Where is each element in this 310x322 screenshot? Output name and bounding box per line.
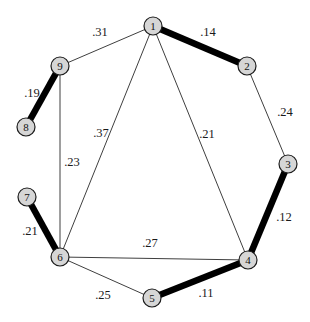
node-8: 8 bbox=[17, 118, 35, 136]
node-2: 2 bbox=[238, 57, 256, 75]
node-number-8: 8 bbox=[23, 121, 29, 133]
edge-weight-9-1: .31 bbox=[92, 25, 108, 39]
graph-svg: .31.14.19.24.37.21.23.12.21.27.25.111234… bbox=[0, 0, 310, 322]
node-6: 6 bbox=[51, 248, 69, 266]
edge-weight-6-4: .27 bbox=[142, 236, 158, 250]
edge-weight-1-2: .14 bbox=[200, 25, 216, 39]
node-1: 1 bbox=[144, 17, 162, 35]
edge-weight-1-6: .37 bbox=[93, 126, 109, 140]
node-3: 3 bbox=[279, 155, 297, 173]
node-number-4: 4 bbox=[245, 254, 251, 266]
node-number-9: 9 bbox=[57, 60, 63, 72]
node-9: 9 bbox=[51, 57, 69, 75]
edge-weight-9-6: .23 bbox=[64, 155, 80, 169]
node-number-3: 3 bbox=[285, 158, 291, 170]
node-number-2: 2 bbox=[244, 60, 250, 72]
edge-1-6 bbox=[60, 26, 153, 257]
node-4: 4 bbox=[239, 251, 257, 269]
edge-weight-8-9: .19 bbox=[24, 86, 40, 100]
node-7: 7 bbox=[18, 188, 36, 206]
edge-weight-6-5: .25 bbox=[95, 288, 111, 302]
node-number-5: 5 bbox=[149, 292, 155, 304]
edge-weight-1-4: .21 bbox=[199, 127, 215, 141]
node-5: 5 bbox=[143, 289, 161, 307]
node-number-6: 6 bbox=[57, 251, 63, 263]
edge-weight-3-4: .12 bbox=[276, 210, 292, 224]
edge-weight-2-3: .24 bbox=[277, 105, 293, 119]
graph-diagram: .31.14.19.24.37.21.23.12.21.27.25.111234… bbox=[0, 0, 310, 322]
edge-6-4 bbox=[60, 257, 248, 260]
node-number-1: 1 bbox=[150, 20, 156, 32]
edge-weight-5-4: .11 bbox=[198, 286, 213, 300]
edge-weight-7-6: .21 bbox=[22, 224, 38, 238]
node-number-7: 7 bbox=[24, 191, 30, 203]
